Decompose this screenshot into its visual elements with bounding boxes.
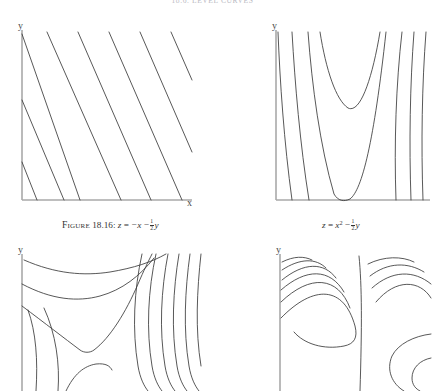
figure-bottom-left: y bbox=[6, 246, 206, 388]
caption-number: 18.16: bbox=[92, 220, 115, 230]
caption-fraction: 12 bbox=[351, 219, 355, 232]
contour-plot-top-left: y x bbox=[6, 22, 206, 210]
caption-eq-var: y bbox=[154, 220, 158, 230]
contour-lines bbox=[22, 32, 192, 200]
figure-caption-left: Figure 18.16: z = −x −12y bbox=[62, 219, 158, 232]
y-axis-label: y bbox=[276, 244, 281, 255]
contour-plot-bottom-right: y bbox=[262, 246, 432, 391]
contour-lines bbox=[278, 32, 426, 201]
caption-eq-lhs: z bbox=[118, 220, 122, 230]
figure-top-left: y x bbox=[6, 22, 206, 210]
x-axis-label: x bbox=[187, 197, 192, 208]
contour-plot-top-right: y bbox=[262, 22, 432, 210]
contour-plot-bottom-left: y bbox=[6, 246, 206, 391]
contour-lines bbox=[281, 256, 431, 391]
fraction-denominator: 2 bbox=[351, 226, 355, 232]
caption-eq-minus: − bbox=[144, 220, 149, 230]
caption-eq-term1: −x bbox=[131, 220, 141, 230]
figure-bottom-right: y bbox=[262, 246, 432, 388]
caption-eq-minus: − bbox=[345, 220, 350, 230]
contour-lines bbox=[22, 254, 201, 391]
y-axis-label: y bbox=[18, 244, 23, 255]
figure-caption-right: z = x2 −12y bbox=[322, 219, 360, 232]
caption-eq-exponent: 2 bbox=[339, 219, 342, 226]
caption-label: Figure bbox=[62, 219, 90, 230]
caption-eq-var: y bbox=[356, 220, 360, 230]
caption-eq-sign: = bbox=[328, 220, 333, 230]
running-header: 18.6. LEVEL CURVES bbox=[0, 0, 425, 4]
caption-eq-sign: = bbox=[124, 220, 129, 230]
y-axis-label: y bbox=[272, 20, 277, 31]
figure-top-right: y bbox=[262, 22, 432, 210]
y-axis-label: y bbox=[18, 20, 23, 31]
caption-eq-lhs: z bbox=[322, 220, 326, 230]
